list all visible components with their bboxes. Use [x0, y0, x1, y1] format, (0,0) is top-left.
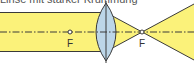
focal-label-left: F: [67, 38, 73, 49]
ray-diagram-svg: F F: [0, 0, 194, 63]
focal-label-right: F: [139, 38, 145, 49]
focal-point-left: [68, 30, 72, 34]
focal-point-right: [140, 30, 144, 34]
lens-diagram: Linse mit starker Krümmung F F: [0, 0, 194, 63]
